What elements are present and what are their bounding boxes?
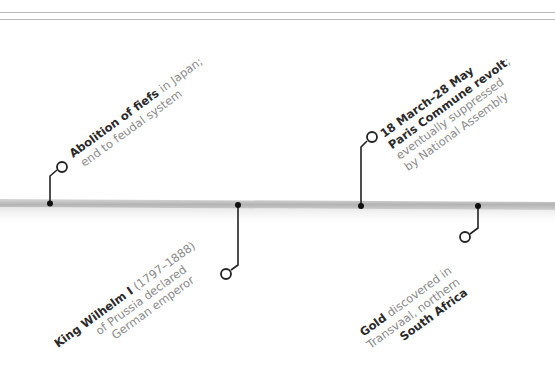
connector-paris-commune xyxy=(358,132,377,209)
timeline-bar-shadow xyxy=(0,207,555,226)
